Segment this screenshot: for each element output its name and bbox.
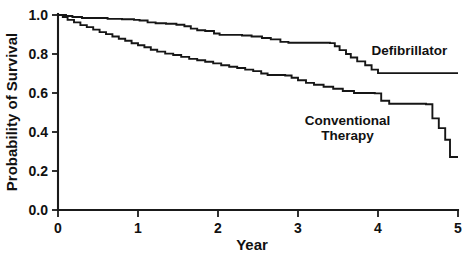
x-axis-ticks: 012345 — [54, 210, 462, 236]
y-tick-label: 0.4 — [29, 124, 49, 140]
y-tick-label: 0.8 — [29, 46, 49, 62]
x-tick-label: 5 — [454, 220, 462, 236]
y-tick-label: 0.2 — [29, 163, 49, 179]
x-axis-title: Year — [236, 236, 268, 253]
y-axis-ticks: 0.00.20.40.60.81.0 — [29, 7, 58, 218]
y-tick-label: 1.0 — [29, 7, 49, 23]
series-label-defibrillator: Defibrillator — [372, 43, 449, 58]
x-tick-label: 3 — [294, 220, 302, 236]
x-tick-label: 4 — [374, 220, 382, 236]
survival-curves — [58, 15, 458, 157]
y-axis-title: Probability of Survival — [3, 33, 20, 191]
series-label-conventional-therapy-line2: Therapy — [321, 128, 374, 143]
x-tick-label: 1 — [134, 220, 142, 236]
chart-canvas: 0.00.20.40.60.81.0 012345 DefibrillatorC… — [0, 0, 470, 256]
y-tick-label: 0.6 — [29, 85, 49, 101]
x-tick-label: 0 — [54, 220, 62, 236]
y-tick-label: 0.0 — [29, 202, 49, 218]
series-label-conventional-therapy-line1: Conventional — [305, 113, 391, 128]
x-tick-label: 2 — [214, 220, 222, 236]
survival-chart-figure: 0.00.20.40.60.81.0 012345 DefibrillatorC… — [0, 0, 470, 256]
